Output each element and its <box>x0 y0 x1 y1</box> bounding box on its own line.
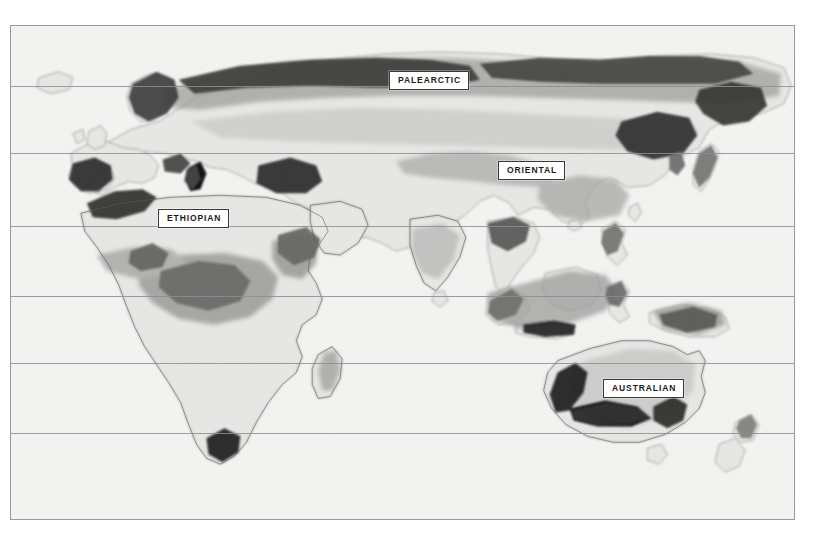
region-label-ethiopian: ETHIOPIAN <box>158 209 229 228</box>
region-label-palearctic: PALEARCTIC <box>389 71 469 90</box>
latitude-gridline-6 <box>11 433 794 434</box>
latitude-gridline-2 <box>11 153 794 154</box>
map-frame: PALEARCTIC ORIENTAL ETHIOPIAN AUSTRALIAN <box>10 25 795 520</box>
world-map-graphic <box>11 26 794 519</box>
latitude-gridline-3 <box>11 226 794 227</box>
map-page: PALEARCTIC ORIENTAL ETHIOPIAN AUSTRALIAN <box>0 0 833 553</box>
region-label-australian: AUSTRALIAN <box>603 379 684 398</box>
latitude-gridline-5 <box>11 363 794 364</box>
latitude-gridline-4 <box>11 296 794 297</box>
region-label-oriental: ORIENTAL <box>498 161 565 180</box>
